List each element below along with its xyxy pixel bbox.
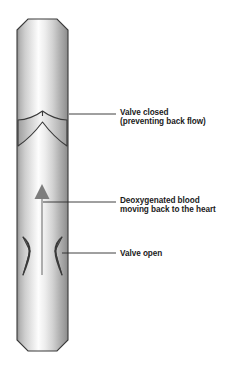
- label-deoxygenated-blood-line1: Deoxygenated blood: [120, 196, 200, 205]
- label-valve-closed-line1: Valve closed: [120, 108, 169, 117]
- label-deoxygenated-blood-line2: moving back to the heart: [120, 205, 216, 214]
- callout-labels: Valve closed (preventing back flow) Deox…: [120, 108, 216, 258]
- diagram-canvas: Valve closed (preventing back flow) Deox…: [0, 0, 240, 370]
- label-valve-open-line1: Valve open: [120, 249, 162, 258]
- vein-valve-diagram: Valve closed (preventing back flow) Deox…: [0, 0, 240, 370]
- label-valve-closed-line2: (preventing back flow): [120, 117, 206, 126]
